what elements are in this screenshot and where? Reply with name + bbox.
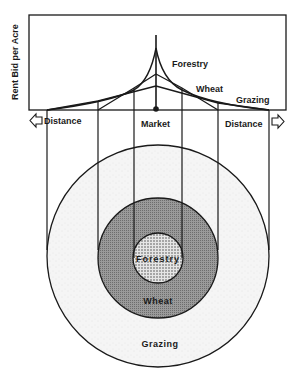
- distance-right-label: Distance: [225, 119, 263, 129]
- distance-axis: Distance Market Distance: [30, 114, 284, 129]
- grazing-curve-label: Grazing: [236, 95, 270, 105]
- forestry-curve-label: Forestry: [172, 59, 208, 69]
- arrow-left-icon: [30, 114, 42, 127]
- grazing-ring-label: Grazing: [141, 339, 178, 349]
- wheat-curve-label: Wheat: [196, 84, 223, 94]
- arrow-right-icon: [272, 115, 284, 128]
- wheat-ring-label: Wheat: [143, 296, 173, 306]
- forestry-ring-label: Forestry: [136, 254, 180, 264]
- y-axis-label: Rent Bid per Acre: [10, 24, 20, 100]
- von-thunen-diagram: Rent Bid per Acre Forestry Wheat Grazing…: [0, 0, 301, 384]
- rent-graph: Rent Bid per Acre Forestry Wheat Grazing: [10, 15, 286, 112]
- distance-left-label: Distance: [44, 116, 82, 126]
- market-point: [153, 106, 159, 112]
- market-label: Market: [141, 119, 170, 129]
